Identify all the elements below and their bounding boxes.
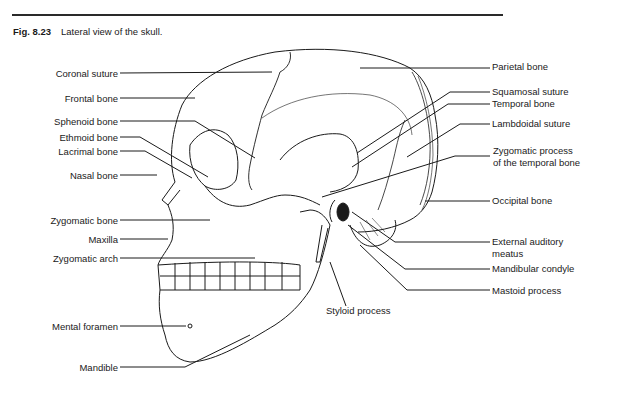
label-external-auditory-line2: meatus bbox=[492, 248, 523, 259]
label-sphenoid-bone: Sphenoid bone bbox=[54, 116, 118, 127]
label-zygomatic-bone: Zygomatic bone bbox=[50, 215, 118, 226]
label-styloid-process: Styloid process bbox=[326, 305, 390, 316]
label-coronal-suture: Coronal suture bbox=[56, 68, 118, 79]
label-mental-foramen: Mental foramen bbox=[52, 321, 118, 332]
label-occipital-bone: Occipital bone bbox=[492, 195, 552, 206]
label-temporal-bone: Temporal bone bbox=[492, 98, 555, 109]
label-parietal-bone: Parietal bone bbox=[492, 61, 548, 72]
label-external-auditory-line1: External auditory bbox=[492, 236, 563, 247]
label-frontal-bone: Frontal bone bbox=[65, 93, 118, 104]
label-zygomatic-process-line2: of the temporal bone bbox=[493, 157, 580, 168]
label-mandibular-condyle: Mandibular condyle bbox=[492, 263, 574, 274]
leader-lines bbox=[120, 68, 490, 367]
label-zygomatic-arch: Zygomatic arch bbox=[53, 253, 118, 264]
label-nasal-bone: Nasal bone bbox=[70, 170, 118, 181]
label-mandible: Mandible bbox=[79, 362, 118, 373]
label-lambdoidal-suture: Lambdoidal suture bbox=[492, 118, 570, 129]
label-ethmoid-bone: Ethmoid bone bbox=[59, 132, 118, 143]
label-lacrimal-bone: Lacrimal bone bbox=[58, 146, 118, 157]
label-maxilla: Maxilla bbox=[88, 234, 118, 245]
label-mastoid-process: Mastoid process bbox=[492, 285, 561, 296]
label-squamosal-suture: Squamosal suture bbox=[492, 86, 569, 97]
label-zygomatic-process-line1: Zygomatic process bbox=[493, 145, 573, 156]
skull-outline bbox=[158, 49, 438, 362]
